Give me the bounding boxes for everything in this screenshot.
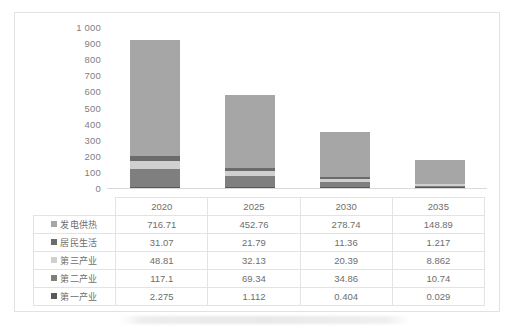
table-corner-cell (34, 198, 116, 216)
chart-frame: 1 0009008007006005004003002001000 2020 2… (14, 12, 500, 312)
plot-wrapper: 1 0009008007006005004003002001000 (15, 13, 501, 197)
value-cell: 31.07 (116, 234, 208, 252)
legend-cell-发电供热[interactable]: 发电供热 (34, 216, 116, 234)
legend-label: 第二产业 (60, 274, 97, 284)
y-axis-tick: 0 (41, 184, 101, 194)
figure-caption-blurred (120, 316, 410, 324)
stacked-bar-2035[interactable] (415, 160, 465, 188)
legend-label: 第三产业 (60, 256, 97, 266)
table-header-row: 2020 2025 2030 2035 (34, 198, 485, 216)
table-row: 第一产业2.2751.1120.4040.029 (34, 288, 485, 306)
value-cell: 452.76 (208, 216, 300, 234)
value-cell: 1.217 (392, 234, 484, 252)
table-row: 居民生活31.0721.7911.361.217 (34, 234, 485, 252)
x-axis-baseline (107, 188, 487, 189)
stacked-bar-2020[interactable] (130, 40, 180, 188)
value-cell: 8.862 (392, 252, 484, 270)
legend-swatch-icon (51, 293, 57, 299)
legend-swatch-icon (51, 239, 57, 245)
value-cell: 69.34 (208, 270, 300, 288)
stacked-bar-2025[interactable] (225, 95, 275, 188)
value-cell: 2.275 (116, 288, 208, 306)
y-axis-tick: 300 (41, 136, 101, 146)
value-cell: 48.81 (116, 252, 208, 270)
value-cell: 34.86 (300, 270, 392, 288)
bar-segment-发电供热[interactable] (320, 132, 370, 177)
value-cell: 278.74 (300, 216, 392, 234)
y-axis-tick: 900 (41, 39, 101, 49)
value-cell: 117.1 (116, 270, 208, 288)
legend-cell-第二产业[interactable]: 第二产业 (34, 270, 116, 288)
bar-segment-第二产业[interactable] (225, 176, 275, 187)
legend-label: 居民生活 (60, 238, 97, 248)
bar-segment-发电供热[interactable] (225, 95, 275, 168)
y-axis-tick: 400 (41, 120, 101, 130)
legend-cell-居民生活[interactable]: 居民生活 (34, 234, 116, 252)
bar-segment-第三产业[interactable] (130, 161, 180, 169)
chart-screenshot: 1 0009008007006005004003002001000 2020 2… (0, 0, 517, 328)
plot-area (107, 27, 487, 188)
bar-segment-第二产业[interactable] (130, 169, 180, 188)
data-table: 2020 2025 2030 2035 发电供热716.71452.76278.… (33, 197, 485, 306)
y-axis-tick: 700 (41, 71, 101, 81)
bar-segment-发电供热[interactable] (130, 40, 180, 155)
year-header-2025: 2025 (208, 198, 300, 216)
table-row: 发电供热716.71452.76278.74148.89 (34, 216, 485, 234)
legend-label: 第一产业 (60, 292, 97, 302)
value-cell: 10.74 (392, 270, 484, 288)
year-header-2020: 2020 (116, 198, 208, 216)
y-axis-tick: 100 (41, 168, 101, 178)
table-row: 第三产业48.8132.1320.398.862 (34, 252, 485, 270)
y-axis-tick: 200 (41, 152, 101, 162)
table-row: 第二产业117.169.3434.8610.74 (34, 270, 485, 288)
legend-label: 发电供热 (60, 220, 97, 230)
y-axis-tick: 1 000 (41, 23, 101, 33)
value-cell: 21.79 (208, 234, 300, 252)
legend-swatch-icon (51, 221, 57, 227)
legend-swatch-icon (51, 257, 57, 263)
legend-cell-第三产业[interactable]: 第三产业 (34, 252, 116, 270)
y-axis-tick: 600 (41, 87, 101, 97)
value-cell: 20.39 (300, 252, 392, 270)
legend-swatch-icon (51, 275, 57, 281)
value-cell: 0.029 (392, 288, 484, 306)
bar-segment-发电供热[interactable] (415, 160, 465, 184)
value-cell: 716.71 (116, 216, 208, 234)
y-axis-tick: 800 (41, 55, 101, 65)
value-cell: 1.112 (208, 288, 300, 306)
value-cell: 148.89 (392, 216, 484, 234)
legend-cell-第一产业[interactable]: 第一产业 (34, 288, 116, 306)
value-cell: 0.404 (300, 288, 392, 306)
value-cell: 32.13 (208, 252, 300, 270)
year-header-2030: 2030 (300, 198, 392, 216)
year-header-2035: 2035 (392, 198, 484, 216)
y-axis: 1 0009008007006005004003002001000 (41, 27, 101, 191)
stacked-bar-2030[interactable] (320, 132, 370, 188)
y-axis-tick: 500 (41, 104, 101, 114)
value-cell: 11.36 (300, 234, 392, 252)
